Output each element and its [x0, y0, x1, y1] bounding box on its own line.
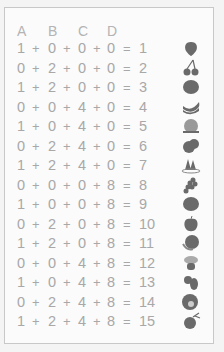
digit-c: 4: [78, 98, 86, 117]
cherries-icon: [181, 59, 201, 76]
guava-icon: [181, 254, 201, 271]
sum-value: 11: [139, 234, 154, 253]
equation-row: 1+2+4+0=7: [5, 156, 215, 175]
digit-d: 8: [107, 254, 115, 273]
plus-sign: +: [93, 117, 101, 136]
plus-sign: +: [32, 39, 40, 58]
equals-sign: =: [123, 78, 131, 97]
equals-sign: =: [123, 137, 131, 156]
digit-c: 4: [78, 312, 86, 331]
digit-c: 4: [78, 137, 86, 156]
digit-d: 8: [107, 176, 115, 195]
sum-value: 2: [139, 59, 147, 78]
digit-a: 1: [17, 117, 25, 136]
digit-a: 1: [17, 156, 25, 175]
digit-c: 4: [78, 273, 86, 292]
equals-sign: =: [123, 59, 131, 78]
digit-c: 4: [78, 254, 86, 273]
header-d: D: [107, 23, 117, 39]
digit-a: 1: [17, 195, 25, 214]
strawberry-icon: [181, 39, 201, 56]
digit-c: 0: [78, 176, 86, 195]
sum-value: 7: [139, 156, 147, 175]
digit-d: 0: [107, 137, 115, 156]
digit-d: 0: [107, 98, 115, 117]
plus-sign: +: [32, 195, 40, 214]
digit-b: 2: [48, 293, 56, 312]
equation-row: 1+2+0+8=11: [5, 234, 215, 253]
plus-sign: +: [93, 176, 101, 195]
digit-d: 0: [107, 78, 115, 97]
peach-icon: [181, 117, 201, 134]
orange-icon: [181, 195, 201, 212]
equation-row: 0+2+0+8=10: [5, 215, 215, 234]
equation-row: 0+2+4+0=6: [5, 137, 215, 156]
equation-row: 0+0+4+8=12: [5, 254, 215, 273]
passion-fruit-icon: [181, 293, 201, 310]
plus-sign: +: [93, 156, 101, 175]
digit-a: 0: [17, 137, 25, 156]
plus-sign: +: [63, 234, 71, 253]
plus-sign: +: [63, 156, 71, 175]
sum-value: 8: [139, 176, 147, 195]
equals-sign: =: [123, 195, 131, 214]
digit-b: 2: [48, 312, 56, 331]
plus-sign: +: [63, 59, 71, 78]
header-c: C: [78, 23, 88, 39]
digit-c: 0: [78, 215, 86, 234]
equation-row: 0+2+4+8=14: [5, 293, 215, 312]
plus-sign: +: [63, 215, 71, 234]
bananas-icon: [181, 98, 201, 115]
equals-sign: =: [123, 215, 131, 234]
digit-b: 0: [48, 195, 56, 214]
digit-c: 0: [78, 59, 86, 78]
eggplant-icon: [181, 312, 201, 329]
plus-sign: +: [63, 78, 71, 97]
plus-sign: +: [32, 215, 40, 234]
sum-value: 15: [139, 312, 155, 331]
equation-row: 1+2+0+0=3: [5, 78, 215, 97]
digit-b: 0: [48, 176, 56, 195]
digit-a: 0: [17, 293, 25, 312]
plus-sign: +: [93, 195, 101, 214]
digit-c: 0: [78, 78, 86, 97]
plus-sign: +: [32, 117, 40, 136]
equals-sign: =: [123, 176, 131, 195]
plus-sign: +: [63, 39, 71, 58]
plums-icon: [181, 137, 201, 154]
plus-sign: +: [93, 78, 101, 97]
header-b: B: [48, 23, 57, 39]
digit-c: 0: [78, 234, 86, 253]
plus-sign: +: [93, 39, 101, 58]
digit-a: 0: [17, 59, 25, 78]
digit-c: 0: [78, 39, 86, 58]
equation-row: 0+0+4+0=4: [5, 98, 215, 117]
digit-d: 0: [107, 39, 115, 58]
digit-b: 2: [48, 215, 56, 234]
apple-icon: [181, 215, 201, 232]
digit-a: 1: [17, 234, 25, 253]
equals-sign: =: [123, 273, 131, 292]
digit-d: 8: [107, 215, 115, 234]
digit-d: 8: [107, 312, 115, 331]
sum-value: 10: [139, 215, 155, 234]
plus-sign: +: [63, 293, 71, 312]
equals-sign: =: [123, 156, 131, 175]
sum-value: 12: [139, 254, 155, 273]
equation-row: 1+0+0+0=1: [5, 39, 215, 58]
digit-d: 8: [107, 195, 115, 214]
plus-sign: +: [93, 137, 101, 156]
sum-value: 4: [139, 98, 147, 117]
melon-icon: [181, 234, 201, 251]
plus-sign: +: [32, 293, 40, 312]
sum-value: 5: [139, 117, 147, 136]
digit-b: 2: [48, 234, 56, 253]
equation-row: 1+0+4+0=5: [5, 117, 215, 136]
digit-a: 0: [17, 254, 25, 273]
sum-value: 6: [139, 137, 147, 156]
equals-sign: =: [123, 312, 131, 331]
digit-d: 8: [107, 273, 115, 292]
plus-sign: +: [32, 78, 40, 97]
digit-d: 0: [107, 117, 115, 136]
equals-sign: =: [123, 254, 131, 273]
